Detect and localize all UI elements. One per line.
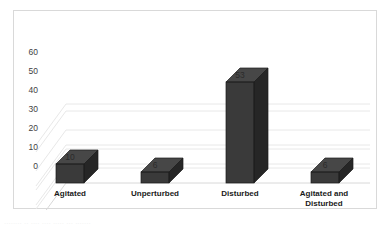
y-tick-label-30: 30 bbox=[14, 105, 38, 114]
y-tick-label-0: 0 bbox=[14, 162, 38, 171]
category-label-agitated: Agitated bbox=[40, 189, 100, 199]
category-label-agitated-and-disturbed: Agitated and Disturbed bbox=[287, 189, 361, 209]
y-tick-label-10: 10 bbox=[14, 143, 38, 152]
bar-disturbed bbox=[226, 68, 268, 183]
y-tick-label-50: 50 bbox=[14, 67, 38, 76]
category-label-unperturbed: Unperturbed bbox=[121, 189, 189, 199]
gridline-top bbox=[36, 104, 370, 145]
caption-artifact: ........ .. .... .... ..... ... ....... bbox=[4, 216, 304, 227]
data-label-unperturbed: 6 bbox=[141, 161, 169, 170]
plot-area: 60 50 40 30 20 10 0 10 6 53 6 Agitated U… bbox=[14, 11, 378, 210]
y-tick-label-60: 60 bbox=[14, 48, 38, 57]
data-label-disturbed: 53 bbox=[226, 71, 254, 80]
y-tick-label-20: 20 bbox=[14, 124, 38, 133]
data-label-agitated: 10 bbox=[56, 153, 84, 162]
chart-frame: 60 50 40 30 20 10 0 10 6 53 6 Agitated U… bbox=[13, 10, 377, 209]
y-tick-label-40: 40 bbox=[14, 86, 38, 95]
category-label-disturbed: Disturbed bbox=[210, 189, 270, 199]
data-label-agitated-and-disturbed: 6 bbox=[311, 161, 339, 170]
gridline-60 bbox=[36, 111, 370, 152]
chart-3d-canvas bbox=[14, 11, 378, 210]
